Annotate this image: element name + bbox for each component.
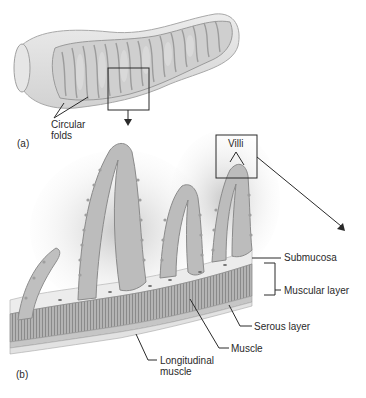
zoom-arrow-a-head [124, 119, 132, 126]
circular-folds-label-line2: folds [51, 130, 72, 141]
muscular-layer-bracket [264, 263, 275, 295]
muscular-layer-label: Muscular layer [284, 285, 350, 296]
longitudinal-muscle-leader [136, 334, 157, 360]
submucosa-label: Submucosa [284, 252, 337, 263]
villi-section [10, 130, 280, 354]
longitudinal-muscle-label-line2: muscle [160, 366, 192, 377]
circular-folds-label-line1: Circular [51, 119, 86, 130]
tube-cut-end [14, 44, 30, 92]
panel-b-tag: (b) [16, 369, 28, 380]
panel-a-tag: (a) [17, 138, 29, 149]
longitudinal-muscle-label-line1: Longitudinal [160, 355, 214, 366]
intestine-tube [14, 14, 239, 108]
villi-label: Villi [228, 138, 243, 149]
muscle-label: Muscle [231, 343, 263, 354]
serous-layer-label: Serous layer [254, 321, 311, 332]
intestine-diagram: Circular folds (a) [0, 0, 366, 398]
diagram-canvas: Circular folds (a) [0, 0, 366, 398]
